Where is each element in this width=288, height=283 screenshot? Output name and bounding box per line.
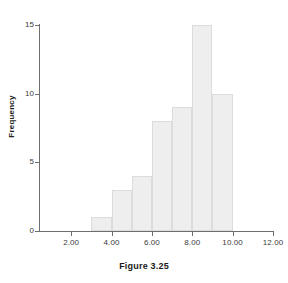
x-tick-label: 6.00 — [130, 238, 174, 247]
y-tick-mark — [35, 162, 39, 163]
y-tick-label: 5 — [4, 157, 34, 166]
figure-container: 051015 2.004.006.008.0010.0012.00 Freque… — [0, 0, 288, 283]
x-tick-mark — [273, 232, 274, 236]
histogram-bar — [91, 217, 111, 231]
x-tick-label: 2.00 — [49, 238, 93, 247]
histogram-bar — [112, 190, 132, 231]
x-tick-mark — [233, 232, 234, 236]
x-tick-label: 10.00 — [211, 238, 255, 247]
x-tick-mark — [71, 232, 72, 236]
y-tick-mark — [35, 94, 39, 95]
histogram-bar — [152, 121, 172, 231]
y-axis-line — [39, 24, 40, 232]
histogram-bar — [192, 25, 212, 231]
y-tick-mark — [35, 231, 39, 232]
y-tick-label: 15 — [4, 20, 34, 29]
histogram-bar — [172, 107, 192, 231]
figure-caption: Figure 3.25 — [0, 261, 288, 271]
histogram-bar — [132, 176, 152, 231]
x-tick-mark — [112, 232, 113, 236]
histogram-bar — [212, 94, 232, 231]
y-tick-mark — [35, 25, 39, 26]
x-tick-label: 4.00 — [90, 238, 134, 247]
y-tick-label: 0 — [4, 226, 34, 235]
y-axis-title: Frequency — [7, 82, 16, 152]
x-tick-mark — [152, 232, 153, 236]
x-tick-mark — [192, 232, 193, 236]
x-tick-label: 12.00 — [251, 238, 288, 247]
histogram-plot: 051015 2.004.006.008.0010.0012.00 Freque… — [0, 0, 288, 250]
x-axis-line — [39, 231, 274, 232]
x-tick-label: 8.00 — [170, 238, 214, 247]
